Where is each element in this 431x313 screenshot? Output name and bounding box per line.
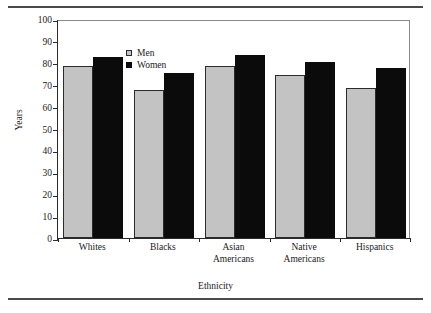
x-category-label-whites: Whites (57, 242, 128, 254)
y-tick-mark (53, 21, 58, 22)
bar-men-native-americans (275, 75, 305, 238)
y-tick-label: 70 (43, 81, 53, 91)
bar-women-asian-americans (235, 55, 265, 238)
bar-men-blacks (134, 90, 164, 238)
y-tick-mark (53, 130, 58, 131)
x-category-label-hispanics: Hispanics (339, 242, 410, 254)
legend-label-women: Women (137, 59, 166, 71)
legend-swatch-men-icon (126, 50, 132, 56)
y-tick-label: 30 (43, 168, 53, 178)
x-category-label-blacks: Blacks (128, 242, 199, 254)
figure: Years 0102030405060708090100 Men Women W… (0, 0, 431, 313)
bar-women-whites (93, 57, 123, 238)
x-category-line1: Whites (79, 242, 106, 252)
bar-series-container (58, 21, 409, 238)
legend-item-women: Women (126, 59, 166, 71)
top-rule (8, 6, 423, 8)
y-tick-label: 100 (38, 15, 52, 25)
y-tick-mark (53, 64, 58, 65)
y-tick-label: 80 (43, 59, 53, 69)
x-category-line2: Americans (198, 254, 269, 266)
x-tick-mark (410, 238, 411, 242)
bar-men-whites (63, 66, 93, 238)
y-tick-mark (53, 196, 58, 197)
legend-swatch-women-icon (126, 62, 132, 68)
y-tick-mark (53, 218, 58, 219)
bar-women-native-americans (305, 62, 335, 238)
x-category-line1: Native (291, 242, 316, 252)
y-axis-tick-labels: 0102030405060708090100 (20, 20, 52, 239)
x-category-label-native-americans: NativeAmericans (269, 242, 340, 265)
y-tick-mark (53, 42, 58, 43)
y-tick-label: 0 (47, 234, 52, 244)
legend: Men Women (126, 47, 166, 71)
bar-women-hispanics (376, 68, 406, 238)
y-tick-label: 90 (43, 37, 53, 47)
x-category-line1: Blacks (150, 242, 176, 252)
x-axis-category-labels: WhitesBlacksAsianAmericansNativeAmerican… (57, 242, 410, 276)
y-tick-label: 20 (43, 190, 53, 200)
plot-area: Men Women (57, 20, 410, 239)
x-category-line1: Hispanics (356, 242, 393, 252)
plot-inner (58, 21, 409, 238)
y-tick-label: 40 (43, 146, 53, 156)
bar-men-hispanics (346, 88, 376, 238)
bar-men-asian-americans (205, 66, 235, 238)
legend-item-men: Men (126, 47, 166, 59)
y-tick-mark (53, 86, 58, 87)
legend-label-men: Men (137, 47, 154, 59)
bar-women-blacks (164, 73, 194, 238)
bottom-rule (8, 298, 423, 300)
y-tick-mark (53, 152, 58, 153)
y-tick-mark (53, 174, 58, 175)
y-tick-label: 50 (43, 125, 53, 135)
x-category-line2: Americans (269, 254, 340, 266)
x-category-label-asian-americans: AsianAmericans (198, 242, 269, 265)
y-tick-label: 60 (43, 103, 53, 113)
x-axis-title: Ethnicity (0, 281, 431, 291)
x-category-line1: Asian (222, 242, 244, 252)
x-axis-line (57, 238, 411, 239)
y-tick-label: 10 (43, 212, 53, 222)
y-tick-mark (53, 108, 58, 109)
